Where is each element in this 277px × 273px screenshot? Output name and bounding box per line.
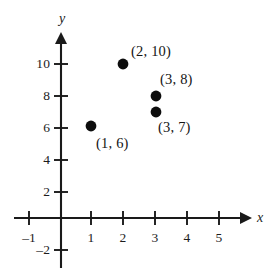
point-label-3-7: (3, 7) <box>158 120 191 135</box>
x-tick-label-4: 4 <box>184 231 191 245</box>
x-axis-arrowhead <box>240 212 252 224</box>
x-tick-label-neg1: –1 <box>22 231 36 245</box>
data-point <box>151 107 162 118</box>
point-label-2-10: (2, 10) <box>131 44 171 59</box>
y-axis-arrowhead <box>55 32 67 44</box>
x-tick-label-3: 3 <box>152 231 159 245</box>
plot-canvas <box>0 0 277 273</box>
y-tick-label-neg2: –2 <box>36 243 50 257</box>
y-tick-label-2: 2 <box>43 185 50 199</box>
x-tick-label-5: 5 <box>216 231 223 245</box>
data-point <box>118 59 129 70</box>
scatter-plot-figure: 10 8 6 4 2 –2 –1 1 2 3 4 5 y x (1, 6) (2… <box>0 0 277 273</box>
y-tick-label-6: 6 <box>43 121 50 135</box>
data-point <box>151 91 162 102</box>
y-tick-label-10: 10 <box>36 57 50 71</box>
x-axis-label: x <box>257 211 263 225</box>
data-point <box>86 121 97 132</box>
x-tick-label-2: 2 <box>120 231 127 245</box>
y-tick-label-4: 4 <box>43 153 50 167</box>
x-tick-label-1: 1 <box>88 231 95 245</box>
y-axis-label: y <box>59 12 65 26</box>
point-label-3-8: (3, 8) <box>160 72 193 87</box>
y-tick-label-8: 8 <box>43 89 50 103</box>
point-label-1-6: (1, 6) <box>96 136 129 151</box>
